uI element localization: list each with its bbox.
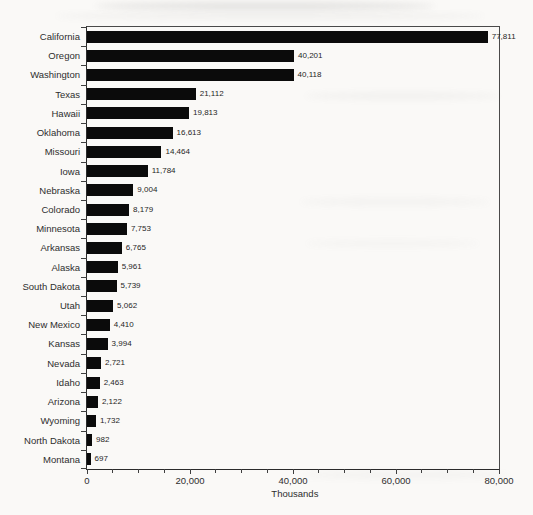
y-axis-tick	[81, 392, 87, 393]
category-label: Nevada	[47, 354, 80, 373]
category-label: California	[40, 27, 80, 46]
y-axis-tick	[81, 27, 87, 28]
category-label: Hawaii	[51, 104, 80, 123]
category-label: Colorado	[41, 200, 80, 219]
y-axis-tick	[81, 142, 87, 143]
y-axis-tick	[81, 46, 87, 47]
value-label: 9,004	[137, 184, 157, 196]
category-label: Montana	[43, 450, 80, 469]
value-label: 14,464	[165, 146, 189, 158]
x-axis-unit-label: Thousands	[271, 488, 318, 499]
category-label: Wyoming	[40, 411, 80, 430]
x-axis-tick	[344, 469, 345, 473]
bar	[87, 88, 196, 100]
bar	[87, 261, 118, 273]
bar	[87, 50, 294, 62]
y-axis-tick	[81, 181, 87, 182]
y-axis-tick	[81, 431, 87, 432]
value-label: 5,062	[117, 300, 137, 312]
value-label: 2,463	[104, 377, 124, 389]
bar	[87, 204, 129, 216]
bar	[87, 107, 189, 119]
y-axis-tick	[81, 238, 87, 239]
x-axis-tick	[241, 469, 242, 473]
y-axis-tick	[81, 123, 87, 124]
bar	[87, 280, 117, 292]
x-axis-tick-label: 0	[84, 475, 89, 486]
category-label: Oregon	[48, 46, 80, 65]
bar	[87, 434, 92, 446]
x-axis-tick	[447, 469, 448, 473]
scan-artifact	[95, 2, 435, 10]
x-axis-tick	[293, 469, 294, 474]
category-label: Oklahoma	[37, 123, 80, 142]
value-label: 11,784	[152, 165, 176, 177]
x-axis-tick	[138, 469, 139, 473]
x-axis-tick	[190, 469, 191, 474]
bar	[87, 396, 98, 408]
value-label: 7,753	[131, 223, 151, 235]
bar	[87, 300, 113, 312]
y-axis-tick	[81, 334, 87, 335]
x-axis-tick	[499, 469, 500, 474]
value-label: 40,118	[298, 69, 322, 81]
plot-area: Thousands California77,811Oregon40,201Wa…	[86, 26, 500, 470]
scan-artifact	[55, 13, 485, 19]
x-axis-tick	[267, 469, 268, 473]
y-axis-tick	[81, 450, 87, 451]
value-label: 21,112	[200, 88, 224, 100]
y-axis-tick	[81, 296, 87, 297]
category-label: Nebraska	[39, 181, 80, 200]
bar	[87, 319, 110, 331]
category-label: Texas	[55, 85, 80, 104]
y-axis-tick	[81, 65, 87, 66]
x-axis-tick-label: 80,000	[484, 475, 513, 486]
category-label: New Mexico	[28, 315, 80, 334]
category-label: South Dakota	[22, 277, 80, 296]
y-axis-tick	[81, 104, 87, 105]
category-label: Idaho	[56, 373, 80, 392]
category-label: Utah	[60, 296, 80, 315]
category-label: Minnesota	[36, 219, 80, 238]
x-axis-tick-label: 40,000	[278, 475, 307, 486]
bar	[87, 184, 133, 196]
y-axis-tick	[81, 219, 87, 220]
value-label: 6,765	[126, 242, 146, 254]
value-label: 40,201	[298, 50, 322, 62]
value-label: 5,961	[122, 261, 142, 273]
value-label: 16,613	[177, 127, 201, 139]
bar	[87, 223, 127, 235]
y-axis-tick	[81, 354, 87, 355]
bar	[87, 415, 96, 427]
value-label: 3,994	[112, 338, 132, 350]
value-label: 1,732	[100, 415, 120, 427]
value-label: 77,811	[492, 31, 516, 43]
y-axis-tick	[81, 200, 87, 201]
category-label: Alaska	[51, 258, 80, 277]
value-label: 4,410	[114, 319, 134, 331]
x-axis-tick	[318, 469, 319, 473]
bar	[87, 377, 100, 389]
x-axis-tick-label: 20,000	[175, 475, 204, 486]
bar	[87, 165, 148, 177]
bar	[87, 31, 488, 43]
y-axis-tick	[81, 373, 87, 374]
bar	[87, 338, 108, 350]
value-label: 5,739	[121, 280, 141, 292]
category-label: Kansas	[48, 334, 80, 353]
y-axis-tick	[81, 258, 87, 259]
y-axis-tick	[81, 85, 87, 86]
x-axis-tick	[87, 469, 88, 474]
category-label: Missouri	[45, 142, 80, 161]
value-label: 2,721	[105, 357, 125, 369]
value-label: 19,813	[193, 107, 217, 119]
y-axis-tick	[81, 411, 87, 412]
y-axis-tick	[81, 162, 87, 163]
value-label: 8,179	[133, 204, 153, 216]
bar	[87, 453, 91, 465]
category-label: North Dakota	[24, 431, 80, 450]
x-axis-tick-label: 60,000	[381, 475, 410, 486]
category-label: Arizona	[48, 392, 80, 411]
bar	[87, 146, 161, 158]
x-axis-tick	[215, 469, 216, 473]
